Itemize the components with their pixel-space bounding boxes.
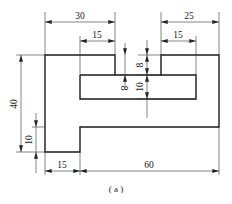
dimension-bottom-foot-15: 15 [45, 160, 80, 171]
technical-drawing: 30 15 25 15 15 60 40 10 8 8 [0, 0, 232, 204]
dim-label-15-right: 15 [173, 30, 183, 40]
dim-label-8-left: 8 [119, 86, 129, 91]
dim-label-10-foot: 10 [24, 135, 34, 145]
dimension-left-notch-depth-8: 8 [119, 43, 129, 91]
dim-label-60: 60 [144, 160, 154, 170]
part-outline [45, 55, 219, 152]
dimension-top-right-25: 25 [161, 11, 219, 22]
dimension-right-notch-depth-8: 8 [135, 40, 147, 75]
dimension-bottom-60: 60 [80, 160, 219, 171]
dim-label-15-foot: 15 [57, 160, 67, 170]
dimension-overall-height-40: 40 [9, 55, 21, 152]
extension-lines [16, 12, 219, 175]
dim-label-30: 30 [75, 11, 85, 21]
dimension-slot-height-10: 10 [135, 75, 147, 118]
dim-label-15-left: 15 [92, 30, 102, 40]
dim-label-10-slot: 10 [135, 82, 145, 92]
dimension-top-left-notch-15: 15 [80, 30, 115, 41]
dimension-foot-height-10: 10 [24, 113, 36, 173]
dim-label-25: 25 [184, 11, 194, 21]
dim-label-40: 40 [9, 99, 19, 109]
dimension-top-left-30: 30 [45, 11, 115, 22]
dim-label-8-right: 8 [135, 62, 145, 67]
dimension-top-right-notch-15: 15 [161, 30, 196, 41]
figure-caption: ( a ) [109, 184, 124, 194]
